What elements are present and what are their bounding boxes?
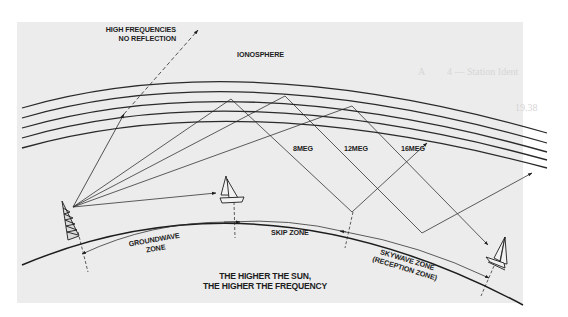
frequency-label-12meg: 12MEG xyxy=(344,145,368,154)
propagation-diagram xyxy=(0,0,568,317)
caption-line2: THE HIGHER THE FREQUENCY xyxy=(180,281,350,291)
high-frequency-label-line2: NO REFLECTION xyxy=(72,35,176,44)
skip-zone-label: SKIP ZONE xyxy=(271,229,309,238)
frequency-label-8meg: 8MEG xyxy=(293,145,313,154)
sailboat-icon xyxy=(220,176,244,203)
high-frequency-label: HIGH FREQUENCIES NO REFLECTION xyxy=(72,26,176,43)
caption-line1: THE HIGHER THE SUN, xyxy=(180,271,350,281)
ionosphere-layers xyxy=(22,82,547,168)
sky-rays xyxy=(73,96,532,245)
high-frequency-ray xyxy=(73,30,198,207)
frequency-label-16meg: 16MEG xyxy=(401,145,425,154)
caption: THE HIGHER THE SUN, THE HIGHER THE FREQU… xyxy=(180,271,350,291)
ionosphere-label: IONOSPHERE xyxy=(237,51,284,60)
sailboat-icon xyxy=(486,237,507,270)
